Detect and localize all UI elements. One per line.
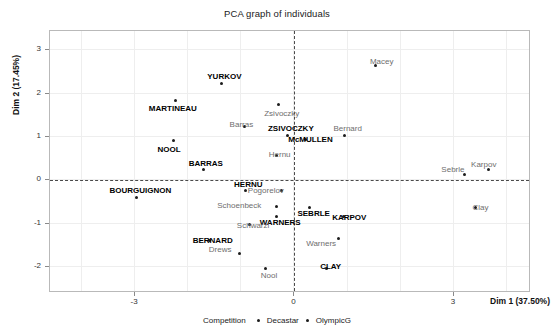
tick-y [45,136,49,137]
pca-chart-figure: PCA graph of individuals Dim 2 (17.45%) … [0,0,554,335]
tick-x [453,292,454,296]
data-point-label: BARRAS [189,160,223,168]
chart-title: PCA graph of individuals [0,8,554,19]
tick-label-y: 3 [23,44,41,53]
tick-label-x: 3 [438,297,468,306]
gridline-horizontal [50,266,529,267]
tick-y [45,266,49,267]
legend-marker-decastar [257,319,260,322]
tick-y [45,93,49,94]
data-point[interactable] [343,134,346,137]
tick-x [293,292,294,296]
tick-label-y: 1 [23,131,41,140]
gridline-vertical [453,31,454,291]
data-point-label: Schoenbeck [217,202,261,210]
data-point-label: MARTINEAU [149,105,197,113]
gridline-vertical [506,31,507,291]
tick-y [45,49,49,50]
data-point[interactable] [337,237,340,240]
data-point-label: Drews [209,246,232,254]
tick-x [134,292,135,296]
gridline-vertical [400,31,401,291]
data-point-label: NOOL [158,146,181,154]
data-point-label: Hernu [269,151,291,159]
data-point-label: Schwarzl [237,222,269,230]
plot-area [49,30,530,292]
legend-label-decastar: Decastar [267,316,299,325]
origin-axis-vertical [294,31,295,291]
tick-label-y: -1 [23,218,41,227]
chart-legend: Competition Decastar OlympicG [0,316,554,325]
gridline-vertical [347,31,348,291]
gridline-vertical [134,31,135,291]
data-point-label: Zsivoczky [264,110,299,118]
tick-label-x: -3 [119,297,149,306]
tick-label-x: 0 [278,297,308,306]
data-point-label: CLAY [320,263,341,271]
data-point-label: McMULLEN [288,136,332,144]
gridline-vertical [81,31,82,291]
data-point-label: Pogorelov [248,187,284,195]
legend-title: Competition [203,316,246,325]
data-point-label: ZSIVOCZKY [268,125,314,133]
data-point-label: BOURGUIGNON [110,187,172,195]
data-point-label: YURKOV [207,73,241,81]
data-point-label: Nool [261,272,277,280]
data-point[interactable] [275,205,278,208]
tick-label-y: 0 [23,174,41,183]
data-point-label: Clay [473,204,489,212]
tick-label-y: -2 [23,261,41,270]
origin-axis-horizontal [50,180,529,181]
tick-y [45,223,49,224]
data-point-label: Macey [370,58,394,66]
gridline-horizontal [50,93,529,94]
legend-marker-olympicg [306,319,309,322]
tick-label-y: 2 [23,88,41,97]
data-point-label: KARPOV [332,214,366,222]
data-point-label: SEBRLE [297,210,329,218]
data-point-label: Bernard [333,125,361,133]
gridline-horizontal [50,49,529,50]
tick-y [45,179,49,180]
legend-label-olympicg: OlympicG [316,316,351,325]
data-point-label: Sebrle [441,166,464,174]
data-point-label: Warners [306,240,336,248]
data-point-label: Barras [230,121,254,129]
data-point-label: Karpov [471,161,496,169]
y-axis-label: Dim 2 (17.45%) [11,35,21,135]
data-point[interactable] [172,139,175,142]
